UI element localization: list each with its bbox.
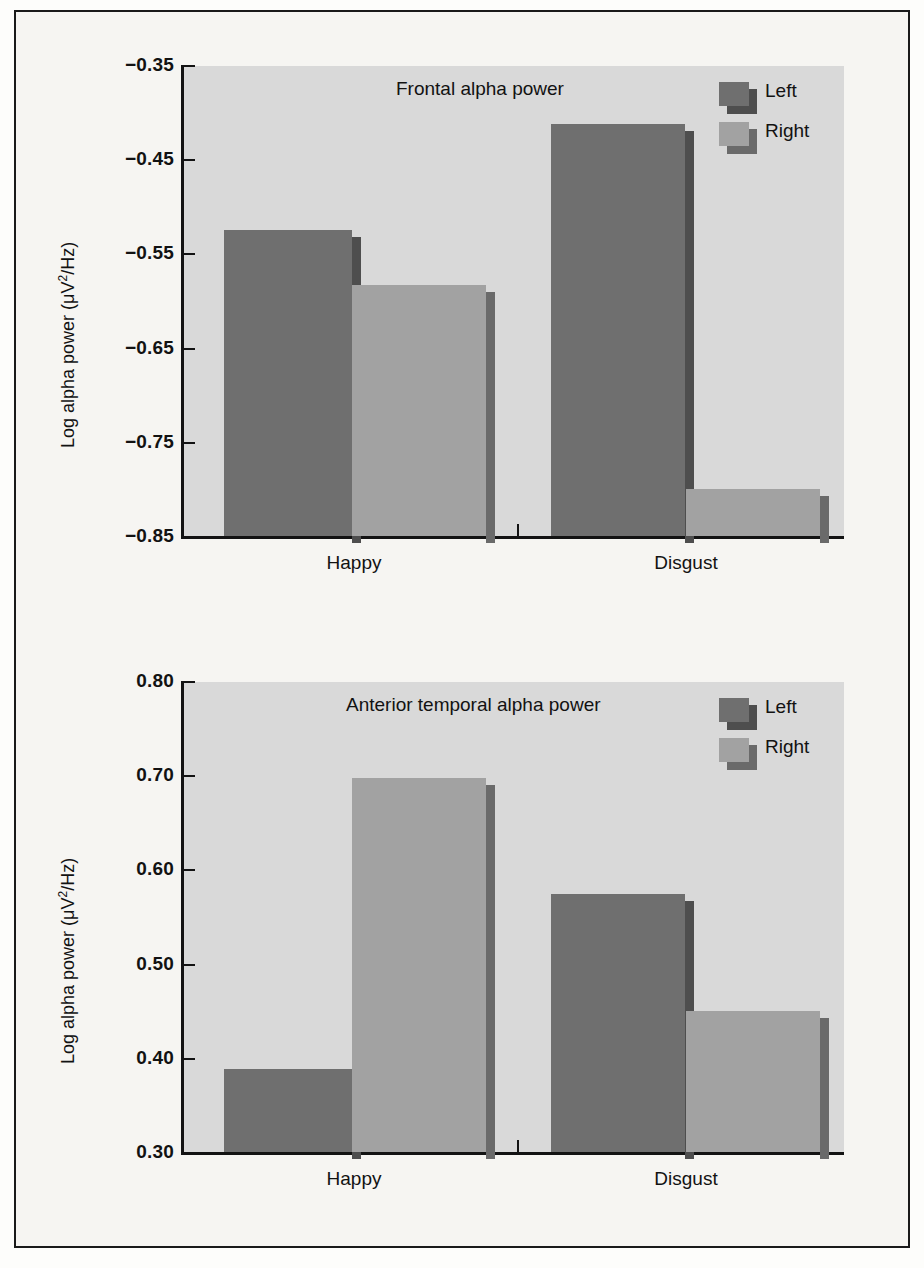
y-tick-label-0: −0.35	[78, 54, 174, 76]
bar-temporal-happy-right	[352, 778, 486, 1152]
x-label-disgust: Disgust	[616, 552, 756, 574]
x-axis-line	[181, 1152, 844, 1155]
legend-swatch-base	[727, 722, 757, 730]
y-tick-label-4: −0.75	[78, 431, 174, 453]
x-label-disgust: Disgust	[616, 1168, 756, 1190]
legend-label-left: Left	[765, 696, 797, 718]
legend-swatch-face	[719, 738, 749, 762]
legend-swatch-left-icon	[719, 698, 749, 722]
y-tick-1	[184, 775, 195, 777]
chart-panel-anterior-temporal: 0.80 0.70 0.60 0.50 0.40 0.30 Log alpha …	[16, 636, 912, 1240]
bar-shadow	[820, 496, 829, 543]
y-axis-line	[181, 65, 184, 539]
chart-title: Anterior temporal alpha power	[346, 694, 601, 716]
legend-label-right: Right	[765, 120, 809, 142]
y-tick-label-1: −0.45	[78, 148, 174, 170]
bar-temporal-disgust-left	[551, 894, 685, 1152]
legend-label-left: Left	[765, 80, 797, 102]
bar-face	[352, 778, 486, 1152]
bar-face	[551, 124, 685, 536]
x-label-happy: Happy	[284, 1168, 424, 1190]
y-tick-label-5: −0.85	[78, 525, 174, 547]
figure-frame: −0.35 −0.45 −0.55 −0.65 −0.75 −0.85 Log …	[14, 10, 910, 1248]
bar-shadow	[685, 131, 694, 543]
legend-swatch-base	[727, 146, 757, 154]
bar-face	[686, 489, 820, 536]
legend-label-right: Right	[765, 736, 809, 758]
chart-panel-frontal: −0.35 −0.45 −0.55 −0.65 −0.75 −0.85 Log …	[16, 18, 912, 618]
y-axis-title: Log alpha power (μV2/Hz)	[56, 242, 79, 448]
y-tick-label-2: 0.60	[78, 858, 174, 880]
y-tick-label-0: 0.80	[78, 670, 174, 692]
legend-swatch-left-icon	[719, 82, 749, 106]
bar-shadow	[486, 292, 495, 543]
bar-shadow	[486, 785, 495, 1159]
legend-swatch-base	[727, 762, 757, 770]
y-tick-4	[184, 442, 195, 444]
bar-face	[224, 230, 352, 536]
y-tick-2	[184, 869, 195, 871]
legend-swatch-face	[719, 82, 749, 106]
legend-swatch-right-icon	[719, 122, 749, 146]
y-tick-label-4: 0.40	[78, 1047, 174, 1069]
bar-temporal-disgust-right	[686, 1011, 820, 1152]
bar-face	[686, 1011, 820, 1152]
y-tick-label-1: 0.70	[78, 764, 174, 786]
x-axis-line	[181, 536, 844, 539]
y-tick-label-5: 0.30	[78, 1141, 174, 1163]
legend-swatch-face	[719, 698, 749, 722]
y-tick-0	[184, 681, 195, 683]
x-axis-group-separator-tick	[517, 1140, 519, 1152]
y-axis-title: Log alpha power (μV2/Hz)	[56, 858, 79, 1064]
y-tick-label-2: −0.55	[78, 242, 174, 264]
y-tick-label-3: 0.50	[78, 953, 174, 975]
y-axis-line	[181, 681, 184, 1155]
bar-frontal-disgust-right	[686, 489, 820, 536]
chart-title: Frontal alpha power	[396, 78, 564, 100]
bar-temporal-happy-left	[224, 1069, 352, 1152]
y-tick-2	[184, 253, 195, 255]
bar-face	[224, 1069, 352, 1152]
y-tick-label-3: −0.65	[78, 337, 174, 359]
bar-frontal-happy-left	[224, 230, 352, 536]
legend-swatch-face	[719, 122, 749, 146]
bar-frontal-disgust-left	[551, 124, 685, 536]
legend-swatch-right-icon	[719, 738, 749, 762]
y-tick-3	[184, 964, 195, 966]
y-tick-4	[184, 1058, 195, 1060]
x-label-happy: Happy	[284, 552, 424, 574]
bar-face	[352, 285, 486, 536]
bar-shadow	[820, 1018, 829, 1159]
bar-face	[551, 894, 685, 1152]
bar-frontal-happy-right	[352, 285, 486, 536]
x-axis-group-separator-tick	[517, 524, 519, 536]
y-tick-1	[184, 159, 195, 161]
y-tick-0	[184, 65, 195, 67]
y-tick-3	[184, 348, 195, 350]
legend-swatch-base	[727, 106, 757, 114]
